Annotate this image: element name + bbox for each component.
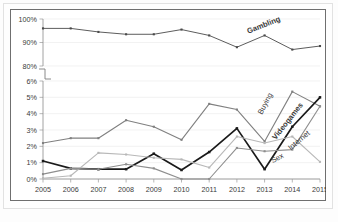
data-point-marker <box>97 152 99 154</box>
data-point-marker <box>291 135 293 137</box>
data-point-marker <box>70 27 72 29</box>
data-point-marker <box>236 46 238 48</box>
y-axis-tick-label: 5% <box>27 93 38 102</box>
y-axis-tick-label: 90% <box>23 38 38 47</box>
data-point-marker <box>125 163 127 165</box>
x-axis-tick-label: 2012 <box>229 185 245 194</box>
y-axis-tick-label: 4% <box>27 109 38 118</box>
data-point-marker <box>42 173 44 175</box>
data-point-marker <box>153 126 155 128</box>
data-point-marker <box>180 158 182 160</box>
data-point-marker <box>153 167 155 169</box>
data-point-marker <box>264 150 266 152</box>
y-axis-tick-label: 2% <box>27 142 38 151</box>
data-point-marker <box>208 151 211 154</box>
data-point-marker <box>153 33 155 35</box>
data-point-marker <box>208 178 210 180</box>
data-point-marker <box>125 33 127 35</box>
data-point-marker <box>97 31 99 33</box>
x-axis-tick-label: 2015 <box>312 185 326 194</box>
x-axis-tick-label: 2005 <box>35 185 51 194</box>
data-point-marker <box>125 119 127 121</box>
data-point-marker <box>180 178 182 180</box>
data-point-marker <box>319 96 322 99</box>
data-point-marker <box>180 29 182 31</box>
data-point-marker <box>42 160 45 163</box>
data-point-marker <box>180 139 182 141</box>
series-label-internet: Internet <box>286 128 312 152</box>
data-point-marker <box>291 91 293 93</box>
chart-screenshot: 100%90%80%6%5%4%3%2%1%0%2005200620072008… <box>0 0 338 222</box>
line-chart: 100%90%80%6%5%4%3%2%1%0%2005200620072008… <box>10 9 326 201</box>
data-point-marker <box>125 168 128 171</box>
data-point-marker <box>319 105 321 107</box>
data-point-marker <box>319 161 321 163</box>
data-point-marker <box>125 153 127 155</box>
y-axis-tick-label: 0% <box>27 175 38 184</box>
data-point-marker <box>208 103 210 105</box>
y-axis-tick-label: 80% <box>23 62 38 71</box>
y-axis-tick-label: 100% <box>19 15 38 24</box>
data-point-marker <box>208 34 210 36</box>
data-point-marker <box>236 147 238 149</box>
data-point-marker <box>236 135 238 137</box>
data-point-marker <box>153 152 156 155</box>
chart-canvas: 100%90%80%6%5%4%3%2%1%0%2005200620072008… <box>10 9 326 201</box>
x-axis-tick-label: 2007 <box>90 185 106 194</box>
data-point-marker <box>236 109 238 111</box>
y-axis-tick-label: 1% <box>27 158 38 167</box>
data-point-marker <box>264 142 266 144</box>
data-point-marker <box>97 168 99 170</box>
data-point-marker <box>291 125 294 128</box>
data-point-marker <box>263 168 266 171</box>
series-label-gambling: Gambling <box>246 14 282 36</box>
y-axis-tick-label: 3% <box>27 126 38 135</box>
series-label-buying: Buying <box>256 91 275 116</box>
data-point-marker <box>291 49 293 51</box>
data-point-marker <box>70 167 72 169</box>
axis-break-marker <box>39 69 51 79</box>
x-axis-tick-label: 2014 <box>284 185 300 194</box>
data-point-marker <box>153 157 155 159</box>
series-line <box>43 28 320 49</box>
data-point-marker <box>42 142 44 144</box>
chart-series-gambling <box>42 27 321 50</box>
data-point-marker <box>97 137 99 139</box>
data-point-marker <box>319 45 321 47</box>
x-axis-tick-label: 2010 <box>174 185 190 194</box>
x-axis-tick-label: 2013 <box>257 185 273 194</box>
data-point-marker <box>70 175 72 177</box>
data-point-marker <box>42 27 44 29</box>
data-point-marker <box>70 137 72 139</box>
data-point-marker <box>42 177 44 179</box>
data-point-marker <box>180 169 183 172</box>
data-point-marker <box>208 167 210 169</box>
x-axis-tick-label: 2008 <box>118 185 134 194</box>
x-axis-tick-label: 2009 <box>146 185 162 194</box>
y-axis-tick-label: 6% <box>27 77 38 86</box>
data-point-marker <box>236 127 239 129</box>
x-axis-tick-label: 2006 <box>63 185 79 194</box>
x-axis-tick-label: 2011 <box>201 185 216 194</box>
data-point-marker <box>264 34 266 36</box>
